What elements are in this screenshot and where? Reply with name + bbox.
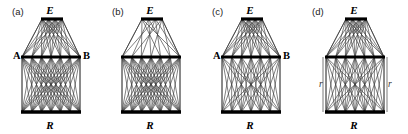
figure-container: (a)ERAB(b)ER(c)ERAB(d)ERrr xyxy=(0,0,408,134)
node-label-r: R xyxy=(246,120,253,131)
node-label-b: B xyxy=(83,51,90,62)
panel-tag-label: (d) xyxy=(312,7,324,17)
diagram-panel: (d)ERrr xyxy=(300,0,408,134)
edge-top-mid xyxy=(149,19,171,57)
panel-graph xyxy=(100,0,200,134)
node-label-r: R xyxy=(146,120,153,131)
edge-top-mid xyxy=(141,19,155,57)
edge-top-mid xyxy=(132,19,162,57)
edge-top-mid xyxy=(336,19,366,57)
diagram-panel: (a)ERAB xyxy=(0,0,100,134)
edge-top-mid xyxy=(141,19,142,57)
node-label-r: R xyxy=(46,120,53,131)
panel-tag-label: (a) xyxy=(12,7,24,17)
node-label-a: A xyxy=(213,51,221,62)
diagram-panel: (b)ER xyxy=(100,0,200,134)
node-label-e: E xyxy=(46,5,53,16)
edge-top-mid xyxy=(142,19,180,57)
edge-top-mid xyxy=(151,19,162,57)
panel-graph xyxy=(300,0,408,134)
edge-top-mid xyxy=(251,19,262,57)
panel-graph xyxy=(200,0,300,134)
node-label-e: E xyxy=(246,5,253,16)
edge-top-mid xyxy=(132,19,149,57)
edge-top-mid xyxy=(155,19,180,57)
node-label-e: E xyxy=(350,5,357,16)
edge-top-mid xyxy=(32,19,62,57)
node-label-r: R xyxy=(350,120,357,131)
edge-label-r-1: r xyxy=(388,80,392,90)
diagram-panel: (c)ERAB xyxy=(200,0,300,134)
node-label-e: E xyxy=(146,5,153,16)
edge-top-mid xyxy=(355,19,366,57)
edge-top-mid xyxy=(232,19,262,57)
panel-graph xyxy=(0,0,100,134)
edge-envelope-right xyxy=(162,19,180,57)
edge-top-mid xyxy=(51,19,62,57)
edge-label-r-0: r xyxy=(319,80,323,90)
panel-tag-label: (c) xyxy=(212,7,223,17)
node-label-b: B xyxy=(283,51,290,62)
node-label-a: A xyxy=(13,51,21,62)
panel-tag-label: (b) xyxy=(112,7,124,17)
edge-top-mid xyxy=(162,19,170,57)
